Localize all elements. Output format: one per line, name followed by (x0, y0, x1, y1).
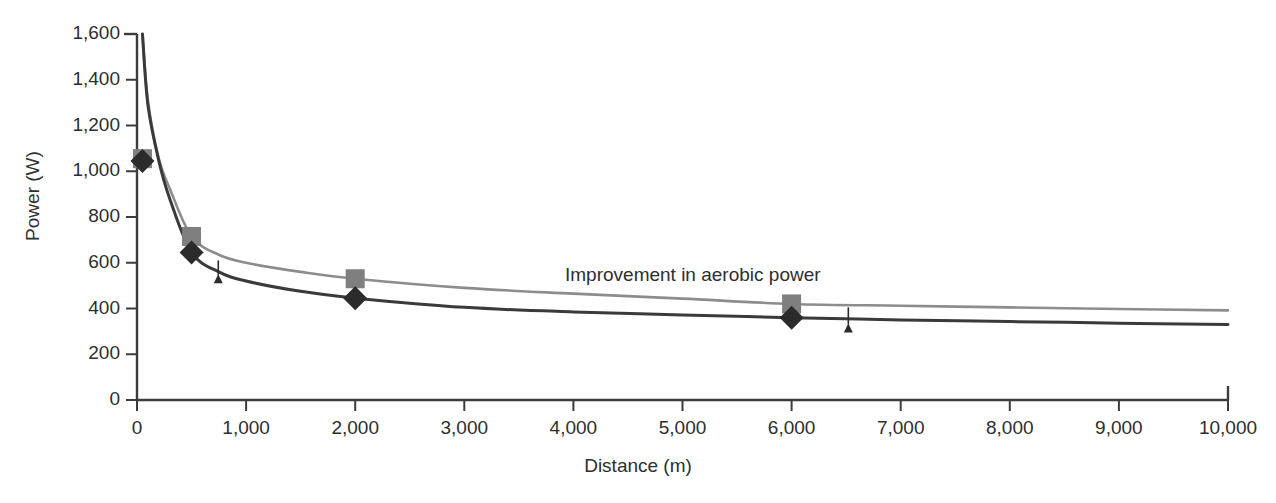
y-axis-tick-label: 1,000 (2, 159, 120, 181)
data-markers-group (130, 149, 803, 330)
x-axis-tick-label: 1,000 (186, 417, 306, 439)
x-axis-title: Distance (m) (0, 455, 1276, 477)
x-axis-tick-label: 9,000 (1059, 417, 1179, 439)
y-axis-title: Power (W) (22, 126, 44, 266)
y-axis-tick-label: 1,200 (2, 114, 120, 136)
x-axis-ticks (137, 400, 1228, 411)
x-axis-tick-label: 10,000 (1168, 417, 1276, 439)
axis-lines (137, 34, 1228, 400)
y-axis-tick-label: 800 (2, 205, 120, 227)
y-axis-tick-label: 200 (2, 342, 120, 364)
annotation-improvement-label: Improvement in aerobic power (565, 264, 821, 286)
series-marker-square (346, 269, 365, 288)
y-axis-ticks (126, 34, 137, 400)
x-axis-tick-label: 5,000 (623, 417, 743, 439)
y-axis-tick-label: 600 (2, 251, 120, 273)
x-axis-tick-label: 6,000 (732, 417, 852, 439)
axes-group (124, 34, 1228, 400)
x-axis-tick-label: 4,000 (513, 417, 633, 439)
x-axis-tick-label: 3,000 (404, 417, 524, 439)
x-axis-tick-label: 2,000 (295, 417, 415, 439)
y-axis-tick-label: 1,600 (2, 22, 120, 44)
annotation-arrow-head (844, 324, 853, 333)
x-axis-tick-label: 7,000 (841, 417, 961, 439)
chart-container: Power (W) Distance (m) Improvement in ae… (0, 0, 1276, 503)
y-axis-tick-label: 400 (2, 297, 120, 319)
annotation-arrow-head (214, 274, 223, 283)
series-marker-diamond (343, 286, 367, 310)
x-axis-tick-label: 8,000 (950, 417, 1070, 439)
x-axis-tick-label: 0 (77, 417, 197, 439)
y-axis-tick-label: 1,400 (2, 68, 120, 90)
y-axis-tick-label: 0 (2, 388, 120, 410)
